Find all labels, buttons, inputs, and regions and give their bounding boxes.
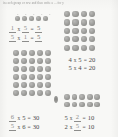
counter-dot [45, 82, 51, 88]
counter-dot [64, 94, 70, 100]
counter-dot [29, 50, 35, 56]
counter-dot [13, 50, 19, 56]
counter-dot [79, 94, 85, 100]
dot-row [64, 11, 95, 17]
counter-dot [72, 45, 78, 51]
dot-row [64, 36, 95, 42]
counter-dot [72, 28, 78, 34]
counter-dot [21, 82, 27, 88]
counter-dot [64, 11, 70, 17]
counter-dot [72, 11, 78, 17]
group-2-array [64, 11, 95, 51]
group-1-equation-1: 1 x 5 = 5 [9, 24, 42, 33]
g3e1-factor-a[interactable]: 6 [9, 113, 16, 122]
g2e2-product: 20 [88, 64, 95, 72]
counter-dot [37, 90, 43, 96]
counter-dot [15, 16, 20, 21]
counter-dot [72, 19, 78, 25]
dot-row [13, 82, 51, 88]
counter-dot [64, 19, 70, 25]
g4e2-product: 10 [87, 123, 94, 131]
counter-dot [29, 90, 35, 96]
counter-dot [21, 66, 27, 72]
g3e1-product: 30 [32, 114, 39, 122]
counter-dot [37, 82, 43, 88]
instruction-text: in each group or row and then write a ..… [3, 0, 116, 6]
counter-dot [45, 66, 51, 72]
group-4-equation-2: 2 x 5 = 10 [64, 122, 95, 131]
counter-dot [81, 11, 87, 17]
g1e1-product[interactable]: 5 [35, 24, 42, 33]
counter-dot [43, 16, 48, 21]
counter-dot [13, 82, 19, 88]
counter-dot [29, 66, 35, 72]
counter-dot [45, 50, 51, 56]
dot-row [64, 45, 95, 51]
g1e2-product[interactable]: 5 [35, 33, 42, 42]
counter-dot [13, 58, 19, 64]
scan-artifact-speck [54, 96, 58, 103]
counter-dot [89, 45, 95, 51]
dot-row [13, 66, 51, 72]
counter-dot [45, 58, 51, 64]
counter-dot [81, 45, 87, 51]
g2e1-product: 20 [88, 56, 95, 64]
g4e1-factor-b[interactable]: 2 [74, 113, 81, 122]
counter-dot [37, 50, 43, 56]
counter-dot [13, 90, 19, 96]
dot-row [13, 74, 51, 80]
group-3-equation-2: 5 x 6 = 30 [9, 122, 40, 131]
counter-dot [36, 16, 41, 21]
counter-dot [64, 45, 70, 51]
counter-dot [21, 90, 27, 96]
g4e1-product: 10 [87, 114, 94, 122]
counter-dot [29, 82, 35, 88]
counter-dot [13, 74, 19, 80]
g1e2-factor-b[interactable]: 1 [22, 33, 29, 42]
counter-dot [64, 36, 70, 42]
worksheet-page: in each group or row and then write a ..… [0, 0, 118, 137]
counter-dot [29, 58, 35, 64]
counter-dot [89, 19, 95, 25]
g4e2-factor-b[interactable]: 5 [74, 122, 81, 131]
counter-dot [45, 90, 51, 96]
counter-dot [81, 28, 87, 34]
group-2-equation-1: 4 x 5 = 20 [68, 56, 96, 64]
counter-dot [72, 102, 78, 108]
counter-dot [89, 28, 95, 34]
group-3-array [13, 50, 51, 96]
group-4-equations: 5 x 2 = 10 2 x 5 = 10 [64, 113, 95, 131]
counter-dot [81, 19, 87, 25]
group-1-equation-2: 5 x 1 = 5 [9, 33, 42, 42]
counter-dot [89, 11, 95, 17]
counter-dot [37, 74, 43, 80]
dot-row [64, 102, 100, 108]
g3e2-product: 30 [32, 123, 39, 131]
dot-row [64, 28, 95, 34]
g1e1-factor-b[interactable]: 5 [22, 24, 29, 33]
group-3-equation-1: 6 x 5 = 30 [9, 113, 40, 122]
counter-dot [21, 58, 27, 64]
group-2-equations: 4 x 5 = 20 5 x 4 = 20 [68, 56, 96, 72]
g1e2-factor-a[interactable]: 5 [9, 33, 16, 42]
counter-dot [72, 36, 78, 42]
group-4-equation-1: 5 x 2 = 10 [64, 113, 95, 122]
counter-dot [87, 102, 93, 108]
dot-row [13, 90, 51, 96]
counter-dot [94, 94, 100, 100]
dot-row [15, 16, 48, 21]
g3e2-factor-a[interactable]: 5 [9, 122, 16, 131]
counter-dot [13, 66, 19, 72]
counter-dot [22, 16, 27, 21]
counter-dot [79, 102, 85, 108]
dot-row [13, 58, 51, 64]
dot-row [64, 94, 100, 100]
g1e1-factor-a[interactable]: 1 [9, 24, 16, 33]
counter-dot [64, 28, 70, 34]
group-1-equations: 1 x 5 = 5 5 x 1 = 5 [9, 24, 42, 42]
counter-dot [72, 94, 78, 100]
group-2-equation-2: 5 x 4 = 20 [68, 64, 96, 72]
counter-dot [81, 36, 87, 42]
dot-row [64, 19, 95, 25]
counter-dot [29, 16, 34, 21]
